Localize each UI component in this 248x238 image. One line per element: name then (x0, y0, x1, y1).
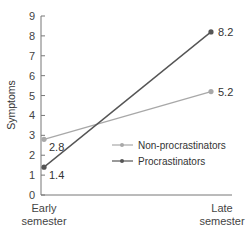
data-point (41, 137, 46, 142)
x-label-early: Early (31, 202, 57, 214)
y-tick-label: 8 (29, 30, 35, 42)
legend-item-non-procrastinators: Non-procrastinators (112, 140, 226, 151)
data-label: 8.2 (218, 26, 233, 38)
data-label: 1.4 (49, 169, 64, 181)
svg-text:Non-procrastinators: Non-procrastinators (138, 140, 226, 151)
y-tick-label: 3 (29, 129, 35, 141)
x-label-early-2: semester (21, 215, 67, 227)
y-tick-label: 5 (29, 90, 35, 102)
data-point (41, 165, 46, 170)
svg-text:Procrastinators: Procrastinators (138, 156, 205, 167)
y-tick-label: 4 (29, 109, 35, 121)
x-label-late-2: semester (199, 215, 245, 227)
y-tick-label: 7 (29, 50, 35, 62)
y-tick-label: 0 (29, 189, 35, 201)
legend-marker-icon (120, 143, 124, 147)
data-label: 5.2 (218, 86, 233, 98)
y-tick-label: 9 (29, 10, 35, 22)
legend-item-procrastinators: Procrastinators (112, 156, 205, 167)
y-tick-label: 2 (29, 149, 35, 161)
y-tick-label: 6 (29, 70, 35, 82)
x-label-late: Late (211, 202, 232, 214)
data-label: 2.8 (49, 141, 64, 153)
legend: Non-procrastinators Procrastinators (112, 140, 226, 167)
line-chart: 0123456789 Symptoms 2.85.21.48.2 Non-pro… (0, 0, 248, 238)
y-tick-label: 1 (29, 169, 35, 181)
data-point (208, 89, 213, 94)
y-ticks: 0123456789 (29, 10, 45, 201)
data-point (208, 29, 213, 34)
legend-marker-icon (120, 159, 124, 163)
y-axis-title: Symptoms (5, 80, 17, 130)
